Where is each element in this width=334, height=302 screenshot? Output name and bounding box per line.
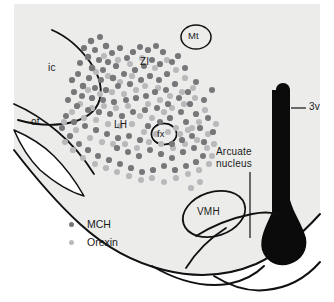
orexin-neuron-marker — [70, 147, 76, 153]
orexin-neuron-marker — [179, 89, 185, 95]
label-zona-incerta: ZI — [140, 57, 149, 68]
mch-neuron-marker — [124, 55, 130, 61]
mch-neuron-marker — [172, 81, 178, 87]
mch-neuron-marker — [183, 163, 189, 169]
orexin-neuron-marker — [213, 121, 219, 127]
mch-neuron-marker — [158, 151, 164, 157]
orexin-neuron-marker — [99, 139, 105, 145]
mch-neuron-marker — [130, 109, 136, 115]
mch-neuron-marker — [65, 97, 71, 103]
mch-neuron-marker — [75, 71, 81, 77]
mch-neuron-marker — [156, 77, 162, 83]
orexin-neuron-marker — [129, 73, 135, 79]
orexin-neuron-marker — [101, 103, 107, 109]
orexin-neuron-marker — [173, 67, 179, 73]
mch-neuron-marker — [96, 109, 102, 115]
mch-neuron-marker — [113, 63, 119, 69]
mch-neuron-marker — [205, 115, 211, 121]
mch-neuron-marker — [107, 111, 113, 117]
orexin-neuron-marker — [158, 141, 164, 147]
orexin-neuron-marker — [185, 171, 191, 177]
mch-neuron-marker — [157, 61, 163, 67]
orexin-neuron-marker — [192, 95, 198, 101]
orexin-neuron-marker — [115, 57, 121, 63]
mch-neuron-marker — [126, 133, 132, 139]
mch-neuron-marker — [169, 59, 175, 65]
orexin-neuron-marker — [138, 177, 144, 183]
mch-neuron-marker — [121, 71, 127, 77]
mch-neuron-marker — [86, 75, 92, 81]
orexin-neuron-marker — [114, 169, 120, 175]
orexin-neuron-marker — [61, 119, 67, 125]
label-ventromedial-hypothalamus: VMH — [197, 207, 220, 218]
label-lateral-hypothalamus: LH — [114, 120, 127, 131]
orexin-neuron-marker — [161, 179, 167, 185]
mch-neuron-marker — [67, 133, 73, 139]
orexin-neuron-marker — [125, 103, 131, 109]
orexin-neuron-marker — [197, 179, 203, 185]
mch-neuron-marker — [82, 123, 88, 129]
mch-neuron-marker — [85, 147, 91, 153]
mch-neuron-marker — [93, 127, 99, 133]
mch-neuron-marker — [164, 71, 170, 77]
mch-neuron-marker — [85, 54, 91, 60]
mch-neuron-marker — [110, 75, 116, 81]
mch-neuron-marker — [63, 113, 69, 119]
mch-neuron-marker — [115, 135, 121, 141]
orexin-neuron-marker — [134, 145, 140, 151]
mch-neuron-marker — [123, 97, 129, 103]
orexin-neuron-marker — [173, 125, 179, 131]
orexin-neuron-marker — [109, 89, 115, 95]
mch-neuron-marker — [103, 87, 109, 93]
orexin-neuron-marker — [97, 91, 103, 97]
orexin-neuron-marker — [149, 175, 155, 181]
mch-neuron-marker — [189, 133, 195, 139]
mch-neuron-marker — [130, 49, 136, 55]
mch-neuron-marker — [98, 77, 104, 83]
mch-neuron-marker — [157, 119, 163, 125]
orexin-neuron-marker — [92, 161, 98, 167]
orexin-neuron-marker — [196, 119, 202, 125]
mch-neuron-marker — [104, 131, 110, 137]
mch-neuron-marker — [200, 153, 206, 159]
mch-neuron-marker — [114, 145, 120, 151]
mch-neuron-marker — [150, 167, 156, 173]
mch-neuron-marker — [152, 89, 158, 95]
mch-neuron-marker — [161, 163, 167, 169]
brain-section-diagram — [0, 0, 334, 302]
mch-neuron-marker — [180, 149, 186, 155]
orexin-neuron-marker — [194, 137, 200, 143]
mch-neuron-marker — [81, 45, 87, 51]
mch-neuron-marker — [197, 125, 203, 131]
orexin-neuron-marker — [182, 75, 188, 81]
orexin-neuron-marker — [189, 125, 195, 131]
mch-neuron-marker — [209, 87, 215, 93]
orexin-neuron-marker — [177, 131, 183, 137]
mch-neuron-marker — [165, 101, 171, 107]
mch-neuron-marker — [106, 157, 112, 163]
orexin-neuron-marker — [105, 121, 111, 127]
orexin-neuron-marker — [181, 101, 187, 107]
mch-neuron-marker — [76, 141, 82, 147]
mch-neuron-marker — [154, 105, 160, 111]
mch-neuron-marker — [97, 34, 103, 40]
orexin-neuron-marker — [80, 155, 86, 161]
orexin-neuron-marker — [202, 107, 208, 113]
mch-neuron-marker — [139, 169, 145, 175]
orexin-neuron-marker — [85, 87, 91, 93]
legend-item-orexin: Orexin — [69, 236, 118, 248]
orexin-neuron-marker — [149, 115, 155, 121]
mch-neuron-marker — [117, 45, 123, 51]
mch-neuron-marker — [163, 87, 169, 93]
mch-neuron-marker — [89, 95, 95, 101]
mch-neuron-marker — [125, 149, 131, 155]
orexin-neuron-marker — [121, 91, 127, 97]
mch-neuron-marker — [117, 161, 123, 167]
mch-neuron-marker — [127, 81, 133, 87]
mch-neuron-marker — [133, 95, 139, 101]
label-arcuate-nucleus-line2: nucleus — [216, 159, 252, 170]
mch-neuron-marker — [138, 77, 144, 83]
orexin-neuron-marker — [157, 97, 163, 103]
label-internal-capsule: ic — [48, 63, 56, 74]
orexin-neuron-marker — [190, 85, 196, 91]
